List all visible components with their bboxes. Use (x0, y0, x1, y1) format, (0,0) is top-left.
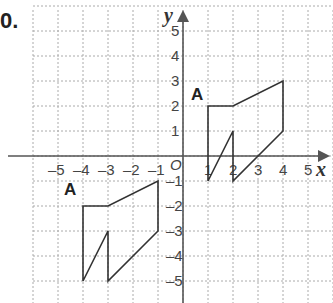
y-tick-label: –2 (166, 197, 183, 214)
x-tick-label: –4 (73, 161, 90, 178)
shape-label: A (191, 85, 203, 104)
x-tick-label: –5 (48, 161, 65, 178)
y-tick-label: 2 (171, 97, 179, 114)
y-tick-label: –1 (166, 172, 183, 189)
y-tick-label: 4 (171, 47, 179, 64)
x-tick-label: –3 (98, 161, 115, 178)
coordinate-grid: x y O –5–4–3–2–11234554321–1–2–3–4–5 AA (0, 0, 333, 303)
x-axis-label: x (315, 158, 326, 180)
y-tick-label: –3 (166, 222, 183, 239)
y-tick-label: –5 (166, 272, 183, 289)
x-tick-label: 3 (254, 161, 262, 178)
shape-label: A (64, 180, 76, 199)
y-tick-label: –4 (166, 247, 183, 264)
y-axis-arrow-icon (177, 10, 189, 22)
x-tick-label: 4 (279, 161, 287, 178)
origin-label: O (170, 156, 182, 173)
y-tick-label: 3 (171, 72, 179, 89)
y-tick-label: 5 (171, 22, 179, 39)
x-tick-label: –1 (148, 161, 165, 178)
y-tick-label: 1 (171, 122, 179, 139)
x-tick-label: 5 (304, 161, 312, 178)
x-tick-label: –2 (123, 161, 140, 178)
